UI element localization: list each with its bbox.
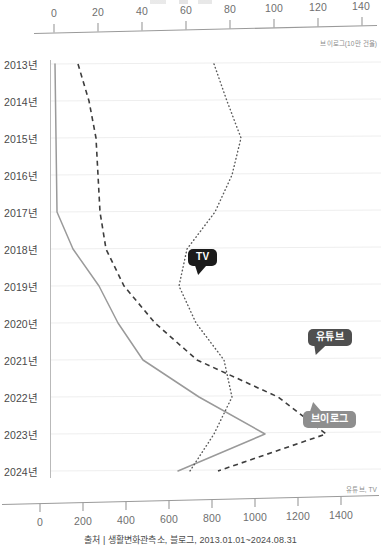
- top-axis: [34, 17, 377, 34]
- source-attribution: 출처 | 생활변화관측소, 블로그, 2013.01.01~2024.08.31: [0, 533, 381, 546]
- top-axis-tick-80: 80: [224, 3, 236, 15]
- series-callout-tv-label: TV: [196, 251, 209, 262]
- chart-root: 0 20 40 60 80 100 120 140 브이로그(10만 건율) 2…: [0, 0, 381, 551]
- top-axis-tick-0: 0: [51, 7, 57, 19]
- y-axis-label-2013: 2013년: [4, 57, 38, 72]
- top-axis-tick-100: 100: [265, 2, 283, 14]
- y-axis-label-2015: 2015년: [4, 131, 38, 146]
- y-axis-label-2017: 2017년: [4, 205, 38, 220]
- bottom-axis-tick-0: 0: [37, 516, 43, 528]
- y-axis-label-2020: 2020년: [4, 316, 38, 331]
- chart-canvas: [0, 0, 381, 551]
- top-axis-tick-40: 40: [136, 5, 148, 17]
- y-axis-label-2019: 2019년: [4, 279, 38, 294]
- series-callout-tv: TV: [188, 249, 217, 266]
- y-axis-label-2016: 2016년: [4, 168, 38, 183]
- y-axis-label-2024: 2024년: [4, 464, 38, 479]
- top-axis-tick-20: 20: [92, 6, 104, 18]
- series-callout-vlog: 브이로그: [303, 411, 356, 428]
- top-axis-tick-60: 60: [180, 4, 192, 16]
- bottom-axis-caption: 유튜브, TV: [346, 484, 377, 494]
- y-axis-label-2022: 2022년: [4, 390, 38, 405]
- y-axis-label-2021: 2021년: [4, 353, 38, 368]
- series-callout-vlog-label: 브이로그: [311, 413, 348, 424]
- bottom-axis-tick-600: 600: [160, 513, 178, 525]
- top-axis-tick-140: 140: [352, 0, 370, 12]
- bottom-axis-tick-1400: 1400: [329, 509, 353, 521]
- bottom-axis: [2, 496, 379, 513]
- bottom-axis-tick-800: 800: [203, 512, 221, 524]
- series-line-tv: [179, 64, 241, 471]
- series-callout-youtube-label: 유튜브: [316, 331, 344, 342]
- bottom-axis-tick-200: 200: [74, 515, 92, 527]
- top-axis-tick-120: 120: [309, 1, 327, 13]
- y-axis-label-2023: 2023년: [4, 427, 38, 442]
- callout-tail-icon: [193, 265, 207, 275]
- y-axis-label-2014: 2014년: [4, 94, 38, 109]
- gridlines: [50, 62, 381, 471]
- bottom-axis-tick-1200: 1200: [286, 510, 310, 522]
- bottom-axis-tick-400: 400: [117, 514, 135, 526]
- callout-tail-icon: [312, 345, 326, 355]
- callout-tail-icon: [308, 402, 322, 412]
- top-axis-caption: 브이로그(10만 건율): [320, 38, 377, 48]
- series-line-youtube: [55, 64, 265, 471]
- bottom-axis-tick-1000: 1000: [243, 511, 267, 523]
- series-callout-youtube: 유튜브: [308, 329, 352, 346]
- y-axis-label-2018: 2018년: [4, 242, 38, 257]
